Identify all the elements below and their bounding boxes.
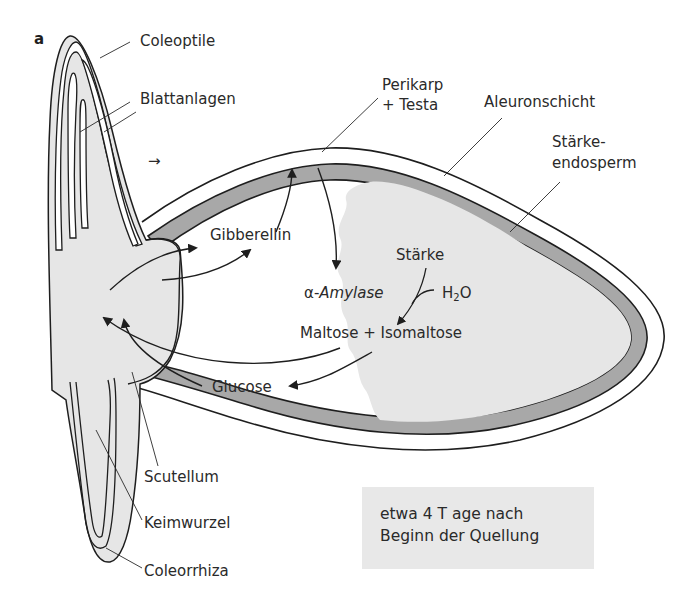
label-keimwurzel: Keimwurzel — [144, 514, 230, 532]
label-staerke-endosperm-1: Stärke- — [552, 133, 606, 151]
label-glucose: Glucose — [212, 378, 272, 396]
amylase-name: Amylase — [319, 284, 383, 302]
h2o-o: O — [460, 284, 472, 302]
label-h2o: H2O — [442, 284, 471, 307]
time-note-box: etwa 4 T age nach Beginn der Quellung — [362, 487, 594, 569]
label-alpha-amylase: α-Amylase — [304, 284, 383, 302]
label-coleorrhiza: Coleorrhiza — [144, 562, 229, 580]
label-aleuronschicht: Aleuronschicht — [484, 93, 595, 111]
label-scutellum: Scutellum — [144, 468, 219, 486]
label-staerke-endosperm-2: endosperm — [552, 154, 637, 172]
label-gibberellin: Gibberellin — [210, 226, 291, 244]
label-maltose-isomaltose: Maltose + Isomaltose — [300, 324, 462, 342]
note-line-2: Beginn der Quellung — [380, 527, 539, 545]
label-perikarp: Perikarp — [382, 76, 443, 94]
label-staerke: Stärke — [396, 246, 444, 264]
alpha-prefix: α- — [304, 284, 319, 302]
h2o-h: H — [442, 284, 453, 302]
label-testa: + Testa — [382, 96, 438, 114]
label-blattanlagen: Blattanlagen — [140, 90, 236, 108]
panel-letter: a — [34, 30, 44, 48]
small-arrow-icon: → — [148, 152, 161, 170]
label-coleoptile: Coleoptile — [140, 32, 215, 50]
note-line-1: etwa 4 T age nach — [380, 505, 523, 523]
